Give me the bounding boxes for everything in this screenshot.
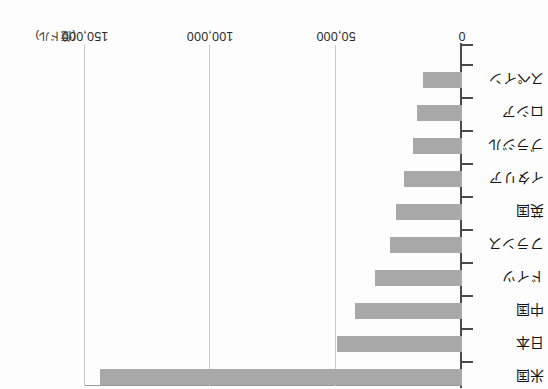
category-tick xyxy=(462,64,473,66)
category-tick xyxy=(462,196,473,198)
category-label-china: 中国 xyxy=(470,301,548,321)
category-tick xyxy=(462,229,473,231)
category-label-france: フランス xyxy=(470,235,548,255)
bar-russia xyxy=(417,105,462,121)
category-label-spain: スペイン xyxy=(470,70,548,90)
category-label-usa: 米国 xyxy=(470,367,548,387)
rotated-figure-container: 0 50,000 100,000 150,000 (億ドル) 米国 日本 中国 … xyxy=(0,0,548,389)
axis-end-tick xyxy=(462,44,473,46)
tick-label-0: 0 xyxy=(458,29,465,43)
bar-france xyxy=(390,237,462,253)
category-label-brazil: ブラジル xyxy=(470,136,548,156)
bar-china xyxy=(355,303,462,319)
bar-japan xyxy=(337,336,462,352)
bar-italy xyxy=(404,171,462,187)
bar-chart: 0 50,000 100,000 150,000 (億ドル) 米国 日本 中国 … xyxy=(0,0,548,389)
category-tick xyxy=(462,361,473,363)
tick-label-50000: 50,000 xyxy=(316,29,355,43)
tick-label-100000: 100,000 xyxy=(187,29,234,43)
category-tick xyxy=(462,295,473,297)
bar-brazil xyxy=(413,138,462,154)
bar-uk xyxy=(397,204,463,220)
category-label-uk: 英国 xyxy=(470,202,548,222)
category-label-italy: イタリア xyxy=(470,169,548,189)
category-label-germany: ドイツ xyxy=(470,268,548,288)
category-label-japan: 日本 xyxy=(470,334,548,354)
bar-spain xyxy=(423,72,462,88)
category-tick xyxy=(462,130,473,132)
category-tick xyxy=(462,262,473,264)
gridline-50000 xyxy=(335,45,336,386)
category-tick xyxy=(462,97,473,99)
unit-label: (億ドル) xyxy=(35,29,76,45)
gridline-100000 xyxy=(209,45,210,386)
plot-top-border xyxy=(84,385,462,386)
bar-germany xyxy=(375,270,462,286)
category-label-russia: ロシア xyxy=(470,103,548,123)
category-tick xyxy=(462,163,473,165)
category-tick xyxy=(462,328,473,330)
bar-usa xyxy=(100,369,462,385)
gridline-150000 xyxy=(84,45,85,386)
